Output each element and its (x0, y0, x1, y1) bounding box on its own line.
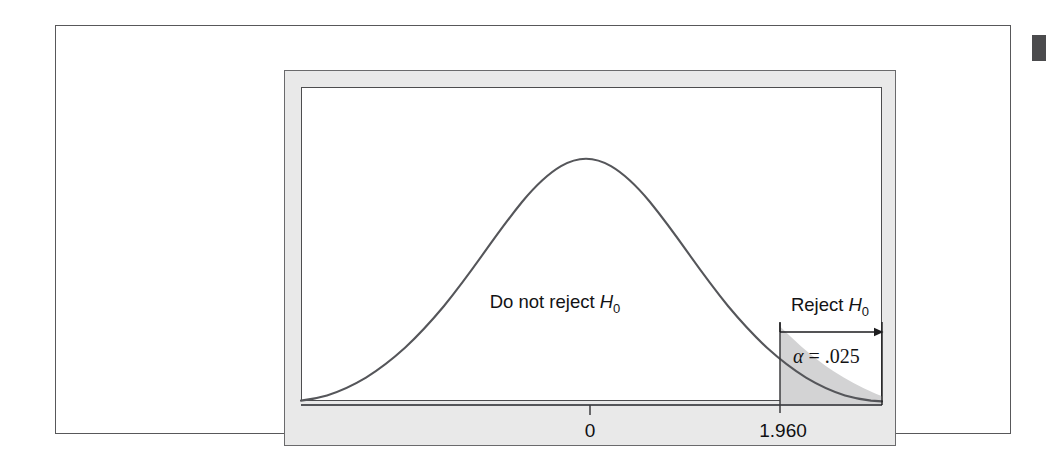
do-not-reject-subscript: 0 (613, 301, 620, 316)
reject-subscript: 0 (862, 304, 869, 319)
page-corner-marker (1032, 35, 1046, 61)
do-not-reject-h: H (600, 291, 614, 312)
tick-label-zero: 0 (585, 420, 596, 441)
reject-arrow (780, 323, 875, 333)
reject-h: H (848, 294, 862, 315)
alpha-symbol: α (793, 345, 804, 367)
normal-distribution-chart: 0 1.960 Do not reject H0 Reject H0 α = .… (285, 71, 897, 447)
tick-label-critical: 1.960 (759, 420, 807, 441)
figure-panel: 0 1.960 Do not reject H0 Reject H0 α = .… (284, 70, 896, 446)
reject-label: Reject H0 (791, 294, 869, 319)
alpha-value: = .025 (804, 345, 860, 367)
reject-text: Reject (791, 294, 849, 315)
do-not-reject-label: Do not reject H0 (490, 291, 621, 316)
alpha-annotation: α = .025 (793, 345, 860, 367)
page-frame: 0 1.960 Do not reject H0 Reject H0 α = .… (55, 25, 1011, 434)
do-not-reject-text: Do not reject (490, 291, 600, 312)
